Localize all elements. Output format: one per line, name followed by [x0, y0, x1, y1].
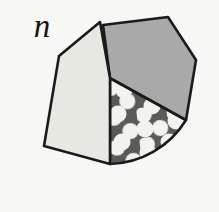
figure-label-n: n [24, 6, 60, 46]
figure-canvas: n [0, 0, 219, 212]
